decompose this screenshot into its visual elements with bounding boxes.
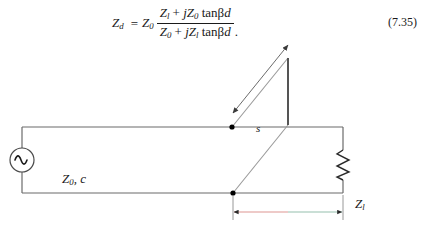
fraction-denominator: Z0 + jZl tanβd [157,24,234,41]
equation-7-35: Zd = Z0 Zl + jZ0 tanβd Z0 + jZl tanβd . [112,6,238,41]
node-bottom [230,190,235,195]
stub-length-label: s [256,122,260,134]
fraction-numerator: Zl + jZ0 tanβd [157,6,234,24]
stub-conductor-upper [232,58,288,127]
equation-row: Zd = Z0 Zl + jZ0 tanβd Z0 + jZl tanβd . … [0,4,427,38]
ac-source-symbol [10,148,34,172]
equation-period: . [235,24,238,41]
source-circle [10,148,34,172]
equals-sign: = [131,16,138,32]
equation-prefactor: Z0 [142,15,154,31]
junction-nodes [229,124,235,195]
equation-lhs: Zd [112,15,124,31]
node-top [229,124,234,129]
load-resistor-symbol [337,150,349,180]
stub-length-arrow [233,45,288,113]
equation-number: (7.35) [388,15,417,30]
resistor-zigzag [337,150,349,180]
distance-dimension [233,195,343,220]
stub-length-dimension [233,45,288,113]
stub-conductor-lower [233,125,288,193]
equation-fraction: Zl + jZ0 tanβd Z0 + jZl tanβd [157,6,234,41]
characteristic-impedance-label: Z0, c [62,171,86,187]
figure-page: Zd = Z0 Zl + jZ0 tanβd Z0 + jZl tanβd . … [0,0,427,226]
transmission-line-diagram: Z0, c Zl s d 0 [0,40,427,226]
load-impedance-label: Zl [355,196,365,212]
